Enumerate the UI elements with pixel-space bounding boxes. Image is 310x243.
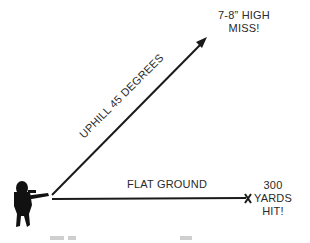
flat-path-label: FLAT GROUND — [127, 178, 207, 191]
uphill-outcome-line1: 7-8” HIGH — [214, 9, 274, 22]
flat-outcome-line2: YARDS — [252, 192, 294, 205]
shooter-icon — [14, 181, 49, 227]
uphill-outcome-label: 7-8” HIGH MISS! — [214, 9, 274, 35]
uphill-outcome-line2: MISS! — [214, 22, 274, 35]
uphill-trajectory-line — [52, 43, 202, 195]
flat-outcome-line1: 300 — [252, 179, 294, 192]
clipped-caption-fragment — [50, 236, 64, 240]
flat-outcome-line3: HIT! — [252, 205, 294, 218]
clipped-caption-fragment — [68, 236, 76, 240]
clipped-caption-fragment — [180, 236, 192, 240]
flat-outcome-label: 300 YARDS HIT! — [252, 179, 294, 218]
flat-trajectory-line — [52, 198, 246, 199]
